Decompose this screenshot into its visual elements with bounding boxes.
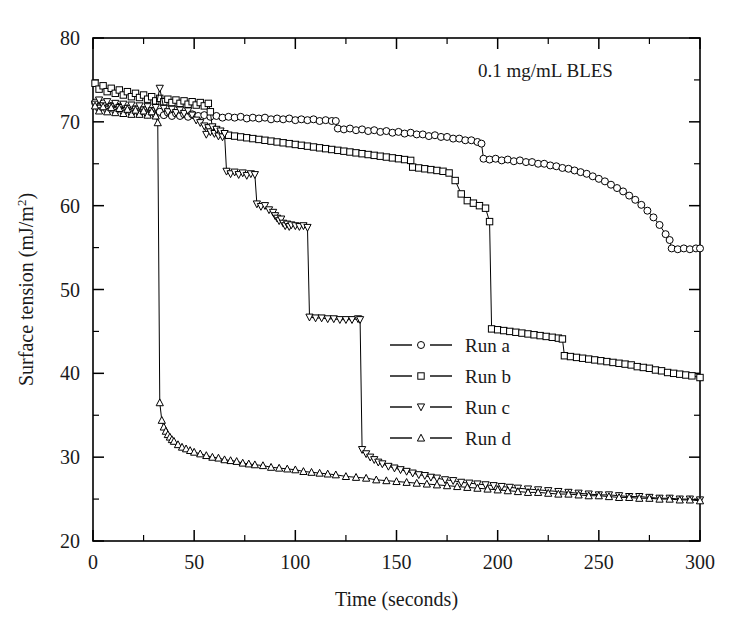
data-point xyxy=(579,355,585,361)
legend-label: Run c xyxy=(465,397,510,418)
data-point xyxy=(610,359,616,365)
legend-label: Run b xyxy=(465,366,511,387)
surface-tension-plot: 20304050607080 050100150200250300 Run aR… xyxy=(0,0,744,629)
data-point xyxy=(383,154,389,160)
y-tick-label: 40 xyxy=(60,362,80,384)
legend-marker xyxy=(418,373,424,379)
data-point xyxy=(486,218,492,224)
data-point xyxy=(389,155,395,161)
data-point xyxy=(626,192,633,199)
data-point xyxy=(622,361,628,367)
data-point xyxy=(519,330,525,336)
data-point xyxy=(638,201,645,208)
y-tick-label: 70 xyxy=(60,111,80,133)
data-point xyxy=(205,100,211,106)
data-point xyxy=(452,177,458,183)
data-point xyxy=(256,136,262,142)
data-point xyxy=(341,148,347,154)
data-point xyxy=(262,137,268,143)
data-point xyxy=(446,170,452,176)
x-axis-title: Time (seconds) xyxy=(335,588,458,611)
data-point xyxy=(310,144,316,150)
data-point xyxy=(478,140,485,147)
x-tick-label: 300 xyxy=(685,551,715,573)
data-point xyxy=(670,370,676,376)
data-point xyxy=(598,358,604,364)
data-point xyxy=(440,168,446,174)
y-tick-label: 30 xyxy=(60,446,80,468)
data-point xyxy=(616,360,622,366)
x-tick-label: 200 xyxy=(483,551,513,573)
x-tick-label: 150 xyxy=(382,551,412,573)
data-point xyxy=(347,149,353,155)
data-point xyxy=(559,336,565,342)
legend-label: Run d xyxy=(465,428,511,449)
data-point xyxy=(231,133,237,139)
chart-figure: 20304050607080 050100150200250300 Run aR… xyxy=(0,0,744,629)
legend-marker xyxy=(418,342,425,349)
data-point xyxy=(697,245,704,252)
x-tick-label: 100 xyxy=(280,551,310,573)
data-point xyxy=(592,357,598,363)
y-tick-label: 20 xyxy=(60,530,80,552)
data-point xyxy=(543,333,549,339)
data-point xyxy=(335,147,341,153)
data-point xyxy=(274,139,280,145)
data-point xyxy=(666,237,673,244)
data-point xyxy=(407,157,413,163)
data-point xyxy=(428,166,434,172)
data-point xyxy=(537,332,543,338)
y-tick-label: 80 xyxy=(60,27,80,49)
data-point xyxy=(316,145,322,151)
data-point xyxy=(632,196,639,203)
data-point xyxy=(652,367,658,373)
data-point xyxy=(476,202,482,208)
data-point xyxy=(422,166,428,172)
data-point xyxy=(640,364,646,370)
data-point xyxy=(656,221,663,228)
data-point xyxy=(677,371,683,377)
data-point xyxy=(549,334,555,340)
data-point xyxy=(470,200,476,206)
y-tick-label: 50 xyxy=(60,279,80,301)
data-point xyxy=(359,150,365,156)
data-point xyxy=(353,150,359,156)
annotation-label: 0.1 mg/mL BLES xyxy=(478,60,613,81)
data-point xyxy=(482,205,488,211)
data-point xyxy=(628,362,634,368)
data-point xyxy=(567,353,573,359)
data-point xyxy=(664,369,670,375)
y-axis-title: Surface tension (mJ/m2) xyxy=(14,193,39,386)
data-point xyxy=(329,146,335,152)
data-point xyxy=(434,167,440,173)
data-point xyxy=(292,141,298,147)
data-point xyxy=(683,372,689,378)
data-point xyxy=(244,135,250,141)
data-point xyxy=(332,117,339,124)
legend-label: Run a xyxy=(465,335,510,356)
data-point xyxy=(365,151,371,157)
data-point xyxy=(458,191,464,197)
x-tick-label: 0 xyxy=(88,551,98,573)
data-point xyxy=(280,140,286,146)
data-point xyxy=(646,365,652,371)
data-point xyxy=(650,214,657,221)
data-point xyxy=(525,331,531,337)
data-point xyxy=(377,153,383,159)
data-point xyxy=(634,363,640,369)
data-point xyxy=(507,328,513,334)
data-point xyxy=(689,373,695,379)
data-point xyxy=(304,143,310,149)
data-point xyxy=(401,156,407,162)
data-point xyxy=(644,207,651,214)
data-point xyxy=(250,135,256,141)
data-point xyxy=(371,152,377,158)
data-point xyxy=(395,156,401,162)
data-point xyxy=(286,140,292,146)
data-point xyxy=(531,332,537,338)
data-point xyxy=(207,109,213,115)
data-point xyxy=(268,138,274,144)
data-point xyxy=(238,134,244,140)
data-point xyxy=(494,327,500,333)
data-point xyxy=(586,356,592,362)
